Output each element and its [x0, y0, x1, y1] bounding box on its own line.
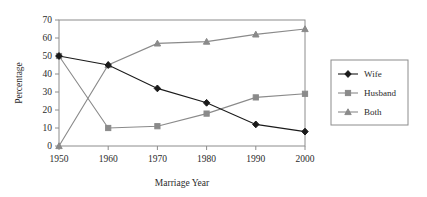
y-tick-label: 30: [43, 87, 53, 97]
series-husband: [56, 53, 307, 130]
legend-label: Wife: [364, 69, 382, 79]
marker-diamond: [302, 128, 308, 135]
series-wife: [56, 53, 308, 135]
marker-diamond: [253, 121, 259, 128]
x-axis-title: Marriage Year: [155, 178, 210, 188]
x-tick-label: 1980: [197, 154, 216, 164]
marker-diamond: [154, 85, 160, 92]
marker-diamond: [203, 99, 209, 106]
y-tick-label: 50: [43, 51, 53, 61]
marker-square: [155, 124, 160, 129]
marker-square: [204, 111, 209, 116]
chart-figure: 010203040506070195019601970198019902000M…: [0, 0, 427, 197]
series-line-husband: [59, 56, 305, 128]
marker-square: [253, 95, 258, 100]
marker-square: [106, 125, 111, 130]
y-tick-label: 40: [43, 69, 53, 79]
x-tick-label: 1950: [50, 154, 69, 164]
x-tick-label: 1960: [99, 154, 118, 164]
y-axis-title: Percentage: [14, 62, 24, 104]
x-tick-label: 2000: [296, 154, 315, 164]
line-chart: 010203040506070195019601970198019902000M…: [0, 0, 427, 197]
legend-label: Husband: [364, 88, 396, 98]
marker-square: [302, 91, 307, 96]
plot-frame: [59, 20, 305, 146]
marker-square: [345, 90, 350, 95]
y-tick-label: 70: [43, 15, 53, 25]
series-both: [56, 26, 308, 149]
y-tick-label: 20: [43, 105, 53, 115]
y-tick-label: 0: [47, 141, 52, 151]
y-tick-label: 60: [43, 33, 53, 43]
y-tick-label: 10: [43, 123, 53, 133]
legend-label: Both: [364, 107, 382, 117]
x-tick-label: 1970: [148, 154, 167, 164]
x-tick-label: 1990: [246, 154, 265, 164]
series-line-both: [59, 29, 305, 146]
